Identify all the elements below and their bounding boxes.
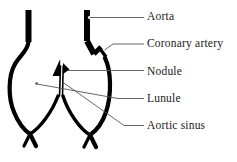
label-aorta: Aorta bbox=[147, 10, 174, 22]
label-nodule: Nodule bbox=[147, 65, 182, 77]
label-aortic-sinus: Aortic sinus bbox=[147, 119, 205, 131]
label-lunule: Lunule bbox=[147, 92, 181, 104]
label-layer: Aorta Coronary artery Nodule Lunule Aort… bbox=[0, 0, 237, 162]
aortic-valve-diagram-page: Aorta Coronary artery Nodule Lunule Aort… bbox=[0, 0, 237, 162]
label-coronary-artery: Coronary artery bbox=[147, 37, 223, 49]
